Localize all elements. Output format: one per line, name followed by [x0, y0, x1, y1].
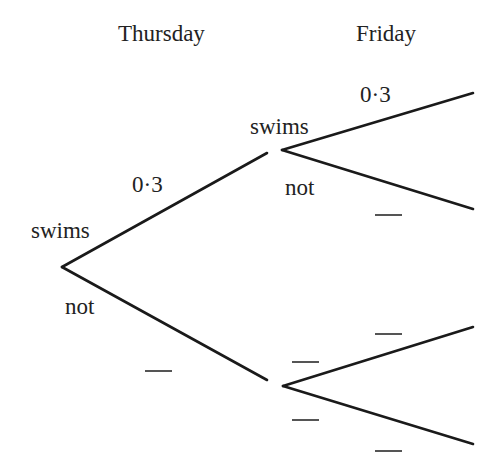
- branch-thursday-swims: [62, 153, 267, 267]
- blank-probability-friday-swims-not[interactable]: [375, 214, 402, 216]
- probability-friday-swims-swims: 0·3: [360, 83, 391, 106]
- label-thursday-not: not: [65, 295, 94, 318]
- header-friday: Friday: [356, 22, 416, 45]
- blank-probability-friday-not-not-right[interactable]: [375, 450, 402, 452]
- header-thursday: Thursday: [118, 22, 205, 45]
- blank-probability-thursday-not[interactable]: [145, 370, 172, 372]
- blank-probability-friday-not-swims-right[interactable]: [375, 333, 402, 335]
- branch-friday-not-not: [283, 386, 473, 444]
- label-thursday-swims: swims: [31, 219, 90, 242]
- blank-outcome-friday-not-not[interactable]: [292, 419, 319, 421]
- label-friday-swims: swims: [250, 115, 309, 138]
- label-friday-not: not: [285, 176, 314, 199]
- blank-outcome-friday-not-swims[interactable]: [292, 361, 319, 363]
- branch-thursday-not: [62, 267, 267, 380]
- branch-friday-not-swims: [283, 327, 473, 386]
- probability-thursday-swims: 0·3: [132, 173, 163, 196]
- probability-tree-diagram: Thursday Friday 0·3 swims not 0·3 swims …: [0, 0, 499, 476]
